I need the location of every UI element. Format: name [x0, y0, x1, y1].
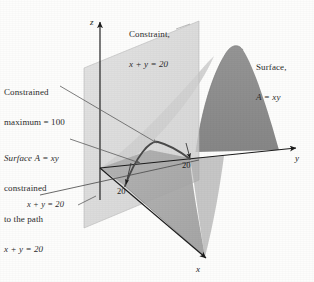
constraint-line-1: Constraint,	[129, 29, 170, 39]
x-intercept-tick-label: 20	[117, 187, 126, 197]
surface-line-1: Surface,	[256, 62, 287, 72]
constrained-surface-line-4: x + y = 20	[4, 244, 59, 254]
constrained-surface-line-2: constrained	[4, 183, 59, 193]
y-intercept-tick-label: 20	[182, 161, 191, 171]
constrained-surface-line-1: Surface A = xy	[4, 153, 59, 163]
constrained-maximum-line-2: maximum = 100	[4, 117, 65, 127]
surface-annotation: Surface, A = xy	[256, 42, 287, 123]
z-axis-label: z	[90, 17, 94, 27]
constrained-surface-line-3: to the path	[4, 214, 59, 224]
x-axis-label: x	[196, 264, 200, 274]
constrained-maximum-line-1: Constrained	[4, 87, 65, 97]
y-axis-label: y	[295, 153, 299, 163]
constraint-annotation: Constraint, x + y = 20	[129, 9, 170, 90]
constraint-line-2: x + y = 20	[129, 59, 170, 69]
path-equation-annotation: x + y = 20	[27, 200, 64, 210]
surface-line-2: A = xy	[256, 92, 287, 102]
constrained-maximum-figure: Constraint, x + y = 20 Surface, A = xy C…	[0, 0, 314, 282]
